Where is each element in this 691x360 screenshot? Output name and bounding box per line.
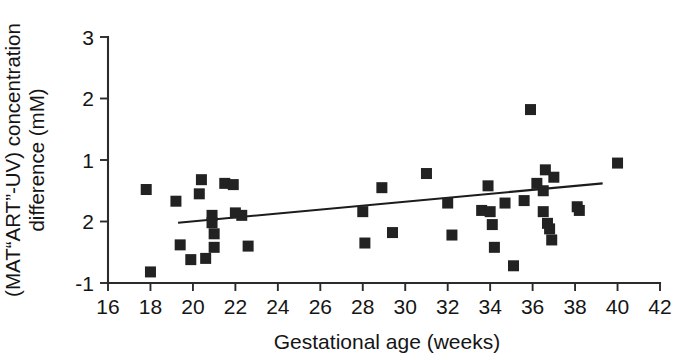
data-point bbox=[185, 254, 196, 265]
y-axis-ticks: 3212-1 bbox=[75, 26, 108, 295]
data-point bbox=[228, 179, 239, 190]
x-tick-label-2: 20 bbox=[181, 295, 204, 318]
data-point bbox=[243, 241, 254, 252]
data-point bbox=[170, 196, 181, 207]
data-point bbox=[489, 242, 500, 253]
data-point bbox=[442, 198, 453, 209]
data-point bbox=[548, 172, 559, 183]
data-point bbox=[525, 104, 536, 115]
x-tick-label-12: 40 bbox=[606, 295, 629, 318]
data-point bbox=[387, 227, 398, 238]
data-point bbox=[209, 228, 220, 239]
data-point bbox=[544, 223, 555, 234]
data-point bbox=[376, 182, 387, 193]
data-point bbox=[196, 174, 207, 185]
x-tick-label-7: 30 bbox=[394, 295, 417, 318]
scatter-plot-figure: 3212-11618202224262830323436384042Gestat… bbox=[0, 0, 691, 360]
y-axis-title-line-2: difference (mM) bbox=[25, 88, 48, 231]
y-tick-label-2: 1 bbox=[82, 149, 94, 172]
data-point bbox=[446, 230, 457, 241]
x-axis-title: Gestational age (weeks) bbox=[274, 330, 500, 353]
y-axis-title-line-1: (MAT“ART”-UV) concentration bbox=[1, 23, 24, 297]
x-tick-label-11: 38 bbox=[563, 295, 586, 318]
data-point bbox=[207, 217, 218, 228]
data-point bbox=[485, 206, 496, 217]
data-point bbox=[500, 198, 511, 209]
y-tick-label-3: 2 bbox=[82, 210, 94, 233]
data-point bbox=[359, 238, 370, 249]
x-tick-label-0: 16 bbox=[96, 295, 119, 318]
x-tick-label-9: 34 bbox=[478, 295, 502, 318]
data-point bbox=[538, 206, 549, 217]
data-point bbox=[483, 180, 494, 191]
x-tick-label-1: 18 bbox=[139, 295, 162, 318]
data-point bbox=[519, 195, 530, 206]
x-axis-ticks: 1618202224262830323436384042 bbox=[96, 283, 671, 318]
data-point-group bbox=[141, 104, 623, 277]
data-point bbox=[508, 260, 519, 271]
data-point bbox=[141, 184, 152, 195]
data-point bbox=[236, 210, 247, 221]
x-tick-label-5: 26 bbox=[309, 295, 332, 318]
data-point bbox=[574, 205, 585, 216]
data-point bbox=[194, 188, 205, 199]
data-point bbox=[487, 219, 498, 230]
data-point bbox=[538, 185, 549, 196]
data-point bbox=[145, 266, 156, 277]
data-point bbox=[546, 234, 557, 245]
x-tick-label-6: 28 bbox=[351, 295, 374, 318]
x-tick-label-10: 36 bbox=[521, 295, 544, 318]
data-point bbox=[357, 206, 368, 217]
plot-canvas: 3212-11618202224262830323436384042Gestat… bbox=[0, 0, 691, 360]
data-point bbox=[209, 242, 220, 253]
y-tick-label-1: 2 bbox=[82, 87, 94, 110]
y-tick-label-0: 3 bbox=[82, 26, 94, 49]
data-point bbox=[612, 158, 623, 169]
x-tick-label-13: 42 bbox=[648, 295, 671, 318]
x-tick-label-3: 22 bbox=[224, 295, 247, 318]
data-point bbox=[200, 253, 211, 264]
x-tick-label-8: 32 bbox=[436, 295, 459, 318]
x-tick-label-4: 24 bbox=[266, 295, 290, 318]
data-point bbox=[421, 168, 432, 179]
y-tick-label-4: -1 bbox=[75, 272, 94, 295]
data-point bbox=[175, 239, 186, 250]
